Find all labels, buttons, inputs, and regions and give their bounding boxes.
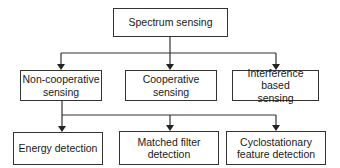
node-cyclostationary-feature-detection: Cyclostationary feature detection <box>226 131 326 165</box>
diagram-canvas: Spectrum sensing Non-cooperative sensing… <box>0 0 340 168</box>
node-label: Spectrum sensing <box>128 16 212 29</box>
node-label: Matched filter detection <box>120 136 218 161</box>
node-cooperative-sensing: Cooperative sensing <box>125 70 217 101</box>
node-label: Cyclostationary feature detection <box>227 136 325 161</box>
node-energy-detection: Energy detection <box>13 132 103 165</box>
node-label: Non-cooperative sensing <box>21 73 101 98</box>
node-interference-based-sensing: Interference based sensing <box>232 70 319 101</box>
node-label: Interference based sensing <box>233 67 318 105</box>
node-matched-filter-detection: Matched filter detection <box>119 131 219 165</box>
node-spectrum-sensing: Spectrum sensing <box>113 8 228 37</box>
node-label: Cooperative sensing <box>125 73 218 98</box>
node-label: Energy detection <box>19 142 98 155</box>
node-non-cooperative-sensing: Non-cooperative sensing <box>20 70 102 101</box>
